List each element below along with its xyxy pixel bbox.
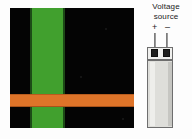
green-vertical-stripe-layer [32, 8, 63, 128]
voltage-source-label-line1: Voltage [140, 2, 192, 12]
device-body-highlight [150, 62, 155, 126]
voltage-source-schematic: Voltage source + – [140, 0, 192, 139]
sample-micrograph [10, 8, 134, 128]
orange-horizontal-stripe-layer [10, 95, 134, 106]
negative-contact-pad [163, 49, 170, 57]
positive-contact-pad [151, 49, 158, 57]
image-speck [80, 76, 82, 78]
negative-terminal-symbol: – [165, 23, 170, 32]
orange-stripe-bottom-edge [10, 106, 134, 107]
positive-terminal-symbol: + [152, 23, 157, 32]
voltage-source-label-line2: source [140, 12, 192, 22]
image-speck [105, 28, 107, 30]
image-speck [122, 118, 124, 120]
device-body-shadow [168, 62, 172, 126]
green-stripe-right-edge [63, 8, 65, 128]
figure-root: Voltage source + – [0, 0, 192, 139]
